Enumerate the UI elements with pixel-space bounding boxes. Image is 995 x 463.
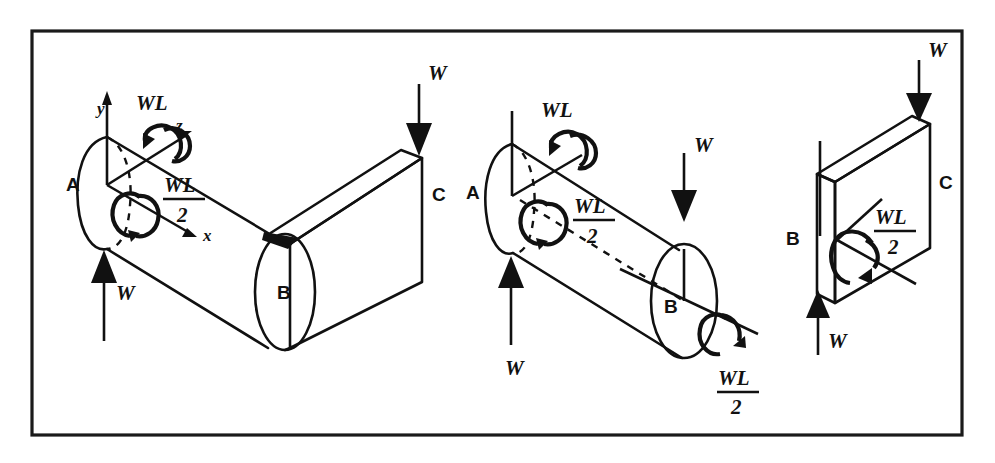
panel2-force-w-a-arrowhead — [498, 256, 524, 288]
panel2-moment-wl2b-arc-left — [700, 314, 726, 354]
panel1-left-endcap-arc — [77, 137, 107, 249]
panel2-axis-diagonal-at-a — [512, 155, 582, 196]
panel3-moment-wl2-numerator: WL — [875, 205, 907, 229]
panel1-label-c: C — [432, 184, 446, 205]
panel3-force-w-c-label: W — [928, 38, 948, 62]
panel2-force-w-a-label: W — [505, 356, 525, 380]
panel1-force-w-c-label: W — [428, 61, 448, 85]
panel2-left-endcap-arc — [485, 144, 513, 254]
free-body-diagram-svg: A B C y z x WL WL 2 W W — [0, 0, 995, 463]
panel1-force-w-c-arrowhead — [406, 123, 432, 156]
panel2-moment-wl-label: WL — [541, 98, 573, 122]
panel3-label-b: B — [786, 228, 800, 249]
panel-3-segment-bc-free-body: B C WL 2 W W — [786, 38, 953, 355]
panel1-force-w-a-label: W — [116, 281, 136, 305]
panel1-moment-wl2-arc-right — [136, 196, 159, 237]
panel3-force-w-b-label: W — [828, 329, 848, 353]
panel3-moment-wl2-denominator: 2 — [887, 235, 899, 259]
panel1-moment-wl2-fraction: WL 2 — [163, 173, 205, 227]
panel2-moment-wl2b-denominator: 2 — [730, 395, 742, 419]
panel3-moment-wl2-arc-right — [866, 240, 878, 268]
panel1-plate-front-face — [290, 158, 422, 348]
panel1-axis-label-z: z — [175, 116, 183, 135]
panel1-axis-label-y: y — [95, 99, 105, 118]
panel2-moment-wl2a-arc-right — [544, 204, 567, 245]
panel2-moment-wl2a-numerator: WL — [574, 194, 606, 218]
panel-2-segment-ab-free-body: A B WL WL 2 WL 2 W W — [466, 98, 759, 419]
panel2-moment-wl-arrowhead — [549, 140, 561, 156]
panel3-plate-top-face — [817, 116, 930, 182]
panel2-moment-wl2b-fraction: WL 2 — [717, 366, 759, 419]
panel3-force-w-b-arrowhead — [806, 290, 830, 318]
panel1-force-w-a-arrowhead — [91, 250, 117, 283]
panel1-moment-wl-label: WL — [136, 91, 168, 115]
panel1-moment-wl2-denominator: 2 — [176, 203, 188, 227]
panel2-label-a: A — [466, 182, 480, 203]
panel2-label-b: B — [664, 296, 678, 317]
panel2-moment-wl2a-fraction: WL 2 — [573, 194, 615, 248]
panel2-force-w-b-arrowhead — [671, 190, 697, 222]
panel1-moment-wl2-numerator: WL — [164, 173, 196, 197]
panel2-moment-wl2b-numerator: WL — [718, 366, 750, 390]
panel1-plate-bottom-join — [285, 348, 290, 350]
panel1-label-a: A — [66, 174, 80, 195]
panel2-moment-wl2a-denominator: 2 — [586, 224, 598, 248]
panel1-axis-label-x: x — [202, 226, 212, 245]
figure-root: A B C y z x WL WL 2 W W — [0, 0, 995, 463]
panel3-moment-wl2-fraction: WL 2 — [874, 205, 916, 259]
panel2-force-w-b-label: W — [694, 133, 714, 157]
panel3-label-c: C — [939, 172, 953, 193]
figure-border — [32, 31, 962, 435]
panel1-label-b: B — [277, 282, 291, 303]
panel3-moment-wl2-arrowhead — [858, 268, 872, 284]
panel1-plate-top-face — [269, 150, 422, 244]
panel-1-bent-bar-assembly: A B C y z x WL WL 2 W W — [66, 61, 448, 350]
panel1-moment-wl-arrowhead — [143, 133, 155, 149]
